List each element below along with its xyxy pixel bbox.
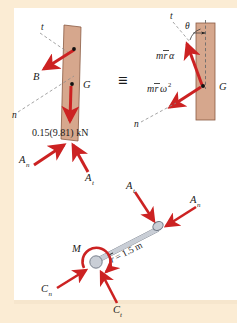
theta-angle-label: θ bbox=[185, 21, 190, 31]
t-axis-label-left: t bbox=[41, 22, 44, 32]
svg-text:n: n bbox=[26, 161, 30, 169]
moment-label: M bbox=[71, 243, 82, 254]
svg-text:α: α bbox=[169, 50, 175, 61]
svg-text:ω: ω bbox=[160, 83, 167, 94]
svg-text:t: t bbox=[120, 311, 123, 319]
svg-text:A: A bbox=[84, 172, 92, 183]
normal-inertia-label: m r ω 2 bbox=[147, 81, 171, 94]
kinetic-diagram: t θ m r α m r ω 2 bbox=[134, 11, 227, 129]
center-of-mass-dot-right bbox=[201, 84, 205, 88]
reaction-An-label-left: A n bbox=[18, 154, 30, 169]
svg-text:m: m bbox=[156, 50, 163, 61]
svg-text:2: 2 bbox=[168, 81, 171, 88]
weight-arrow bbox=[70, 86, 71, 121]
free-body-diagram: t n B G 0.15(9.81) kN A n A t bbox=[12, 22, 95, 187]
svg-text:n: n bbox=[49, 290, 53, 298]
link-An-arrow bbox=[166, 207, 196, 226]
center-of-mass-label-right: G bbox=[219, 81, 227, 92]
svg-text:A: A bbox=[189, 194, 197, 205]
svg-text:m: m bbox=[147, 83, 154, 94]
point-B-dot bbox=[72, 47, 76, 51]
center-of-mass-label-left: G bbox=[83, 79, 91, 90]
link-At-label: A t bbox=[125, 180, 136, 195]
link-Cn-arrow bbox=[57, 270, 86, 288]
engineering-figure: t n B G 0.15(9.81) kN A n A t bbox=[0, 0, 237, 323]
svg-text:r: r bbox=[155, 83, 159, 94]
link-At-arrow bbox=[135, 192, 154, 221]
reaction-At-arrow-left bbox=[73, 145, 88, 172]
n-axis-label-left: n bbox=[12, 110, 17, 120]
link-Ct-arrow bbox=[101, 272, 117, 303]
t-axis-label-right: t bbox=[170, 11, 173, 21]
equivalence-symbol: ≡ bbox=[118, 71, 128, 90]
center-of-mass-dot-left bbox=[70, 82, 74, 86]
pin-joint-C bbox=[90, 256, 102, 268]
svg-text:t: t bbox=[92, 179, 95, 187]
reaction-An-arrow-left bbox=[34, 145, 64, 165]
n-axis-label-right: n bbox=[134, 119, 139, 129]
force-B-label: B bbox=[33, 71, 40, 82]
weight-label: 0.15(9.81) kN bbox=[32, 127, 88, 139]
svg-text:A: A bbox=[18, 154, 26, 165]
link-free-body-diagram: r = 1.5 m A t A n M C n bbox=[41, 180, 201, 319]
reaction-At-label-left: A t bbox=[84, 172, 95, 187]
n-axis-line-right bbox=[141, 103, 176, 122]
link-Cn-label: C n bbox=[41, 283, 53, 298]
svg-text:r: r bbox=[164, 50, 168, 61]
svg-text:A: A bbox=[125, 180, 133, 191]
figure-page: t n B G 0.15(9.81) kN A n A t bbox=[0, 0, 237, 323]
link-Ct-label: C t bbox=[113, 304, 123, 319]
svg-text:n: n bbox=[197, 201, 201, 209]
tangential-inertia-label: m r α bbox=[156, 50, 175, 61]
